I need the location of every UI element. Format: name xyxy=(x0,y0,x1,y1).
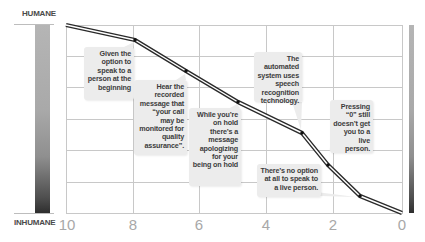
callout-hold-apology: While you’re on hold there’s a message a… xyxy=(189,108,241,186)
x-tick-4: 4 xyxy=(262,216,270,233)
callout-pressing-zero: Pressing “0” still doesn’t get you to a … xyxy=(330,100,373,153)
callout-speech-recognition: The automated system uses speech recogni… xyxy=(254,52,302,102)
x-tick-0: 0 xyxy=(398,216,406,233)
x-tick-6: 6 xyxy=(195,216,203,233)
callout-no-live-person: There’s no option at all to speak to a l… xyxy=(257,164,321,197)
x-tick-2: 2 xyxy=(329,216,337,233)
x-tick-8: 8 xyxy=(129,216,137,233)
callout-recorded-message: Hear the recorded message that “your cal… xyxy=(134,80,187,155)
callout-operator-option: Given the option to speak to a person at… xyxy=(84,47,134,100)
x-tick-10: 10 xyxy=(59,216,76,233)
